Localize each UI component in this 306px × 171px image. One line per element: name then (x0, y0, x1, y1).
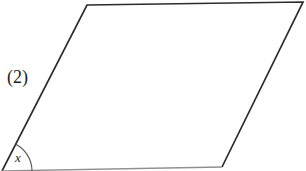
diagram-canvas: (2) x (0, 0, 306, 171)
angle-x-label: x (14, 150, 21, 165)
parallelogram-outline (2, 2, 303, 171)
parallelogram-diagram: (2) x (0, 0, 306, 171)
parallelogram-bottom-edge (2, 167, 222, 171)
figure-number-label: (2) (7, 67, 28, 88)
